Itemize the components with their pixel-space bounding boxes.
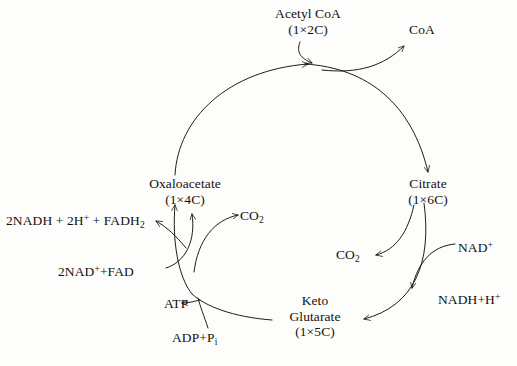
cycle-arc-succinate-to-oxaloacetate <box>174 205 192 294</box>
node-acetyl-coa: Acetyl CoA (1×2C) <box>256 6 360 37</box>
fadh2-subscript: 2 <box>140 220 145 230</box>
cycle-arc-apex-to-citrate <box>305 64 428 172</box>
krebs-cycle-diagram: Acetyl CoA (1×2C) CoA Citrate (1×6C) Oxa… <box>0 0 517 366</box>
co2-upper-text: CO <box>240 208 259 223</box>
nadh-h-plus-sign: + <box>495 292 500 302</box>
adp-text: ADP+P <box>172 330 215 345</box>
oxaloacetate-label: Oxaloacetate <box>149 176 221 191</box>
keto-glutarate-carbon-count: (1×5C) <box>295 324 335 339</box>
arrow-nad-plus-in <box>412 244 455 288</box>
nadh-h-text: NADH+H <box>438 292 495 307</box>
co2-right-text: CO <box>336 247 355 262</box>
arrow-coa-out <box>322 46 404 71</box>
keto-glutarate-label-line2: Glutarate <box>289 309 340 324</box>
co2-upper-subscript: 2 <box>259 215 264 225</box>
arrow-co2-out-right <box>376 205 414 255</box>
citrate-label: Citrate <box>409 176 446 191</box>
arrow-acetyl-coa-in <box>299 42 313 63</box>
label-adp-pi: ADP+Pi <box>172 330 242 350</box>
fadh-text: + FADH <box>89 213 140 228</box>
label-nadh-h-fadh2: 2NADH + 2H+ + FADH2 <box>6 211 166 233</box>
label-co2-right: CO2 <box>336 247 378 267</box>
cycle-arc-oxaloacetate-to-apex <box>175 64 308 175</box>
fad-text: +FAD <box>100 264 134 279</box>
label-nad-plus: NAD+ <box>458 238 510 255</box>
acetyl-coa-label: Acetyl CoA <box>275 6 341 21</box>
node-keto-glutarate: Keto Glutarate (1×5C) <box>272 293 358 340</box>
nad-plus-text: NAD <box>458 240 488 255</box>
keto-glutarate-label-line1: Keto <box>302 293 329 308</box>
node-citrate: Citrate (1×6C) <box>392 176 464 207</box>
citrate-carbon-count: (1×6C) <box>408 192 448 207</box>
acetyl-coa-carbon-count: (1×2C) <box>288 22 328 37</box>
nad-text: 2NAD <box>58 264 94 279</box>
label-nad-plus-fad: 2NAD++FAD <box>58 262 184 279</box>
node-oxaloacetate: Oxaloacetate (1×4C) <box>130 176 240 207</box>
label-atp: ATP <box>164 296 200 312</box>
label-nadh-h: NADH+H+ <box>438 290 512 307</box>
node-coa: CoA <box>396 22 448 38</box>
label-co2-upper: CO2 <box>240 208 282 228</box>
co2-right-subscript: 2 <box>355 254 360 264</box>
nadh-text: 2NADH + 2H <box>6 213 84 228</box>
oxaloacetate-carbon-count: (1×4C) <box>165 192 205 207</box>
arrow-co2-out-upper <box>194 215 238 272</box>
coa-label: CoA <box>409 22 435 37</box>
atp-text: ATP <box>164 296 188 311</box>
pi-subscript: i <box>215 337 218 347</box>
nad-plus-sign: + <box>488 240 493 250</box>
